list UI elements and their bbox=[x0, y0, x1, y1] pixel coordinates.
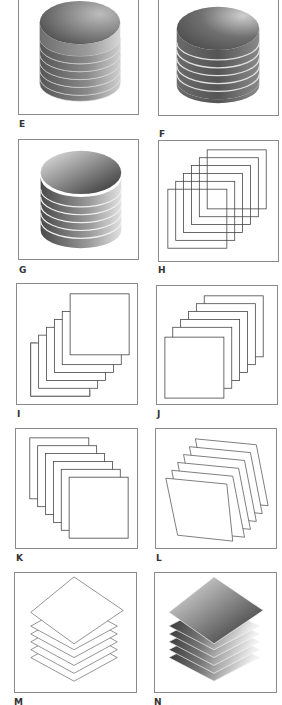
panel-e-frame bbox=[18, 0, 139, 115]
skewed-sheets-icon bbox=[156, 429, 276, 548]
panel-j-label: J bbox=[157, 410, 160, 419]
panel-i-frame bbox=[16, 283, 138, 405]
panel-e-label: E bbox=[19, 120, 25, 129]
panel-n-frame bbox=[154, 572, 277, 693]
panel-l-label: L bbox=[156, 554, 162, 563]
panel-h-label: H bbox=[158, 266, 166, 275]
stacked-discs-icon bbox=[19, 0, 138, 114]
stacked-diamonds-gradient-icon bbox=[155, 573, 276, 692]
panel-k-frame bbox=[15, 428, 138, 549]
panel-j-frame bbox=[156, 285, 278, 405]
stacked-discs-icon bbox=[19, 140, 138, 259]
panel-g-label: G bbox=[19, 266, 26, 275]
panel-m-frame bbox=[14, 572, 137, 693]
panel-f-label: F bbox=[159, 130, 165, 139]
overlapping-squares-icon bbox=[159, 141, 278, 261]
stacked-squares-icon bbox=[157, 286, 277, 404]
panel-g-frame bbox=[18, 139, 139, 260]
panel-i-label: I bbox=[17, 410, 20, 419]
stacked-squares-icon bbox=[17, 284, 137, 404]
stacked-discs-icon bbox=[159, 0, 278, 115]
panel-k-label: K bbox=[16, 554, 23, 563]
panel-h-frame bbox=[158, 140, 279, 262]
panel-m-label: M bbox=[14, 698, 23, 705]
stacked-squares-icon bbox=[16, 429, 137, 548]
panel-l-frame bbox=[155, 428, 277, 549]
stacked-diamonds-icon bbox=[15, 573, 136, 692]
panel-f-frame bbox=[158, 0, 279, 116]
panel-n-label: N bbox=[154, 698, 162, 705]
